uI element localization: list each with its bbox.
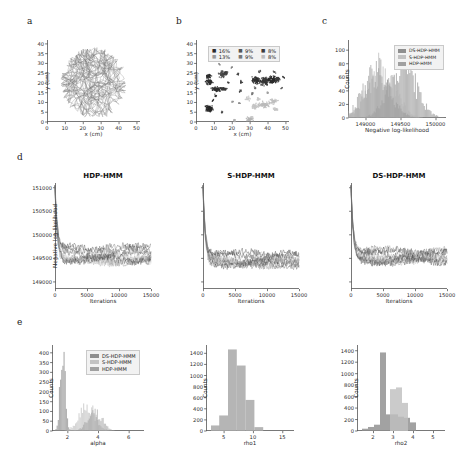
- legend-swatch: [398, 55, 406, 59]
- panel-a-plot-canvas: [47, 40, 142, 124]
- panel-d1-plot-xlabel: Iterations: [55, 298, 151, 304]
- panel-e3-plot-xlabel: rho2: [357, 440, 445, 446]
- panel-e3-plot-ytick: 0: [323, 428, 354, 434]
- legend-label: HDP-HMM: [409, 61, 432, 66]
- panel-b-plot-xlabel: x (cm): [196, 131, 289, 137]
- panel-b-plot-ylabel: y (cm): [193, 40, 199, 122]
- panel-e1-legend: DS-HDP-HMMS-HDP-HMMHDP-HMM: [86, 350, 140, 375]
- panel-d1-plot-chains: [55, 185, 151, 267]
- panel-b-legend-col: ■9%■9%: [238, 48, 253, 60]
- panel-a-plot-ytick: 0: [13, 119, 44, 125]
- panel-d3-plot: [351, 183, 447, 289]
- legend-label: 8%: [268, 54, 276, 60]
- panel-c-plot-ytick: 40: [314, 88, 345, 94]
- panel-d1-plot-ylabel: Negative log-likelihood: [52, 183, 58, 289]
- panel-b-legend-col: ■8%■8%: [261, 48, 276, 60]
- panel-label-a: a: [27, 16, 32, 26]
- panel-e1-plot-ytick: 250: [18, 379, 49, 385]
- panel-e2-plot-ytick: 400: [172, 406, 203, 412]
- panel-b-legend-row: ■8%: [261, 54, 276, 60]
- legend-label: S-HDP-HMM: [409, 55, 436, 60]
- panel-e1-plot-ytick: 50: [18, 418, 49, 424]
- panel-d1-plot-canvas: [55, 183, 153, 291]
- panel-a-plot-ytick: 35: [13, 51, 44, 57]
- panel-c-plot-xlabel: Negative log-likelihood: [348, 127, 446, 133]
- panel-b-legend-row: ■13%: [212, 54, 230, 60]
- legend-label: 13%: [219, 54, 230, 60]
- panel-d2-plot-title: S-HDP-HMM: [203, 172, 299, 180]
- panel-b-legend-row: ■9%: [238, 54, 253, 60]
- panel-e1-plot-ytick: 200: [18, 389, 49, 395]
- panel-e1-plot-ytick: 350: [18, 360, 49, 366]
- panel-b-plot-ytick: 40: [162, 41, 193, 47]
- panel-b-plot-ytick: 25: [162, 70, 193, 76]
- panel-label-b: b: [176, 16, 182, 26]
- panel-b-points: [205, 63, 285, 122]
- legend-swatch: [398, 49, 406, 53]
- panel-c-plot-ytick: 20: [314, 101, 345, 107]
- legend-label: DS-HDP-HMM: [102, 353, 136, 359]
- panel-b-plot-ytick: 10: [162, 99, 193, 105]
- figure-canvas: abcde010203040500510152025303540x (cm)y …: [0, 0, 470, 473]
- panel-a-trajectory: [61, 48, 126, 118]
- panel-b-legend-col: ■16%■13%: [212, 48, 230, 60]
- panel-a-plot: [47, 40, 140, 122]
- panel-c-plot-ytick: 60: [314, 74, 345, 80]
- panel-c-plot-ylabel: Counts: [344, 40, 350, 118]
- panel-e1-plot-ytick: 0: [18, 428, 49, 434]
- legend-swatch: [398, 62, 406, 66]
- panel-label-e: e: [17, 317, 22, 327]
- panel-e2-bars: [211, 349, 263, 431]
- panel-b-plot-ytick: 15: [162, 90, 193, 96]
- panel-e3-bars: [362, 352, 416, 431]
- panel-e3-plot: [357, 345, 445, 431]
- panel-e2-plot-ytick: 0: [172, 428, 203, 434]
- legend-marker-icon: ■: [238, 54, 242, 60]
- panel-e2-plot-ylabel: Counts: [202, 345, 208, 431]
- panel-e2-plot-ytick: 200: [172, 417, 203, 423]
- legend-label: DS-HDP-HMM: [409, 48, 440, 53]
- panel-b-plot-ytick: 35: [162, 51, 193, 57]
- panel-c-legend-row: HDP-HMM: [398, 61, 440, 68]
- panel-c-legend: DS-HDP-HMMS-HDP-HMMHDP-HMM: [394, 45, 444, 70]
- panel-e2-plot-ytick: 1400: [172, 350, 203, 356]
- panel-a-plot-ytick: 30: [13, 60, 44, 66]
- panel-e3-plot-ytick: 600: [323, 394, 354, 400]
- panel-c-plot-ytick: 0: [314, 115, 345, 121]
- panel-label-c: c: [322, 16, 327, 26]
- panel-d2-plot: [203, 183, 299, 289]
- legend-marker-icon: ■: [212, 54, 216, 60]
- panel-e1-plot-ytick: 150: [18, 399, 49, 405]
- panel-a-plot-ytick: 40: [13, 41, 44, 47]
- panel-d3-plot-chains: [351, 185, 447, 266]
- legend-label: HDP-HMM: [102, 366, 127, 372]
- panel-d1-plot-title: HDP-HMM: [55, 172, 151, 180]
- panel-b-legend-grid: ■16%■13%■9%■9%■8%■8%: [212, 48, 276, 60]
- panel-e2-plot-ytick: 800: [172, 384, 203, 390]
- panel-e1-plot-ytick: 300: [18, 369, 49, 375]
- panel-a-plot-ylabel: y (cm): [44, 40, 50, 122]
- panel-a-plot-xlabel: x (cm): [47, 131, 140, 137]
- panel-e1-plot-ytick: 100: [18, 408, 49, 414]
- panel-e2-plot-canvas: [206, 345, 296, 433]
- panel-d2-plot-chains: [203, 185, 299, 269]
- panel-e3-plot-ylabel: Counts: [353, 345, 359, 431]
- panel-a-plot-ytick: 20: [13, 80, 44, 86]
- panel-b-legend: ■16%■13%■9%■9%■8%■8%: [208, 46, 280, 62]
- panel-a-plot-ytick: 10: [13, 99, 44, 105]
- panel-b-plot-ytick: 0: [162, 119, 193, 125]
- legend-swatch: [90, 360, 99, 364]
- panel-a-plot-ytick: 5: [13, 109, 44, 115]
- panel-e1-plot-ytick: 400: [18, 350, 49, 356]
- panel-a-plot-ytick: 15: [13, 90, 44, 96]
- panel-e2-plot: [206, 345, 294, 431]
- panel-e3-plot-ytick: 1000: [323, 371, 354, 377]
- panel-e3-plot-ytick: 1200: [323, 359, 354, 365]
- panel-e1-plot-ylabel: Counts: [48, 345, 54, 431]
- panel-e3-plot-ytick: 400: [323, 405, 354, 411]
- panel-d1-plot-ytick: 149500: [21, 255, 52, 261]
- legend-swatch: [90, 367, 99, 371]
- legend-label: 9%: [245, 54, 253, 60]
- panel-d1-plot-ytick: 150500: [21, 208, 52, 214]
- panel-e1-legend-row: HDP-HMM: [90, 366, 136, 373]
